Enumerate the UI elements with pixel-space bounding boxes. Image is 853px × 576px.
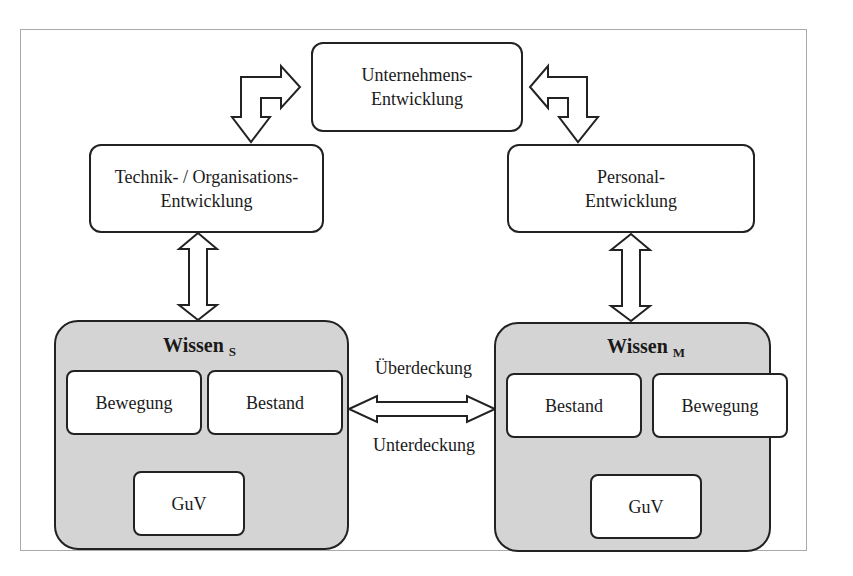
- wissen-s-bewegung: Bewegung: [66, 370, 202, 435]
- horizontal-arrow-icon: [349, 396, 495, 422]
- bent-arrow-right-icon: [530, 66, 598, 142]
- unterdeckung-label: Unterdeckung: [373, 435, 475, 456]
- wissen-m-bewegung: Bewegung: [652, 373, 788, 438]
- wissen-s-guv: GuV: [133, 471, 245, 536]
- bent-arrow-left-icon: [232, 66, 300, 142]
- ueberdeckung-label: Überdeckung: [375, 358, 472, 379]
- wissen-m-guv: GuV: [590, 474, 702, 539]
- vertical-arrow-right-icon: [611, 234, 650, 321]
- wissen-m-bestand: Bestand: [506, 373, 642, 438]
- wissen-s-bestand: Bestand: [207, 370, 343, 435]
- wissen-s-title: Wissen S: [163, 334, 236, 360]
- personal-entwicklung-box: Personal-Entwicklung: [507, 144, 755, 233]
- vertical-arrow-left-icon: [179, 233, 217, 320]
- wissen-m-title: Wissen M: [607, 335, 685, 361]
- unternehmens-entwicklung-box: Unternehmens-Entwicklung: [311, 42, 523, 132]
- technik-organisations-box: Technik- / Organisations-Entwicklung: [89, 144, 324, 233]
